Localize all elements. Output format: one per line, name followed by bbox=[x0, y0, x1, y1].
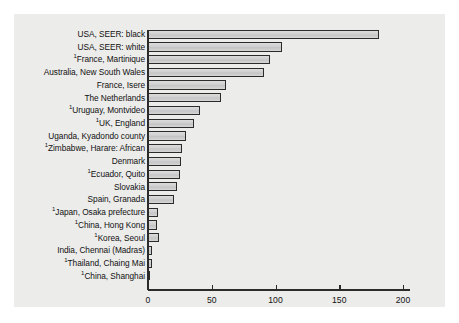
plot-area: USA, SEER: blackUSA, SEER: white1France,… bbox=[14, 14, 445, 307]
bar bbox=[148, 68, 264, 77]
bar-row: France, Isere bbox=[14, 79, 445, 92]
x-tick-label: 0 bbox=[146, 295, 151, 305]
bar-row: 1Korea, Seoul bbox=[14, 232, 445, 245]
bar bbox=[148, 30, 379, 39]
x-axis-line bbox=[148, 289, 410, 291]
footnote-marker: 1 bbox=[75, 219, 78, 225]
bar bbox=[148, 93, 221, 102]
bar bbox=[148, 106, 200, 115]
bar bbox=[148, 220, 157, 229]
category-label: 1Japan, Osaka prefecture bbox=[52, 206, 148, 219]
category-label: 1Ecuador, Quito bbox=[88, 168, 148, 181]
bar-row: Australia, New South Wales bbox=[14, 66, 445, 79]
bar-row: 1China, Shanghai bbox=[14, 270, 445, 283]
x-tick bbox=[276, 285, 277, 291]
category-label: 1Korea, Seoul bbox=[94, 232, 148, 245]
bar bbox=[148, 80, 226, 89]
bar bbox=[148, 131, 186, 140]
footnote-marker: 1 bbox=[73, 54, 76, 60]
footnote-marker: 1 bbox=[94, 232, 97, 238]
bar-row: 1Japan, Osaka prefecture bbox=[14, 206, 445, 219]
category-label: 1Thailand, Chaing Mai bbox=[64, 257, 148, 270]
bar-row: Uganda, Kyadondo county bbox=[14, 130, 445, 143]
category-label: Uganda, Kyadondo county bbox=[48, 130, 148, 143]
bar-row: USA, SEER: white bbox=[14, 41, 445, 54]
bar-row: 1Uruguay, Montvideo bbox=[14, 104, 445, 117]
category-label: The Netherlands bbox=[84, 92, 148, 105]
bar-row: The Netherlands bbox=[14, 92, 445, 105]
bar-row: Spain, Granada bbox=[14, 193, 445, 206]
x-tick-label: 150 bbox=[332, 295, 346, 305]
category-label: 1France, Martinique bbox=[73, 53, 148, 66]
bar bbox=[148, 144, 182, 153]
bar bbox=[148, 157, 181, 166]
bar-row: 1Thailand, Chaing Mai bbox=[14, 257, 445, 270]
chart-panel: USA, SEER: blackUSA, SEER: white1France,… bbox=[14, 14, 445, 307]
footnote-marker: 1 bbox=[45, 143, 48, 149]
footnote-marker: 1 bbox=[64, 257, 67, 263]
bar-row: India, Chennai (Madras) bbox=[14, 244, 445, 257]
bar bbox=[148, 55, 270, 64]
category-label: USA, SEER: black bbox=[78, 28, 148, 41]
category-label: USA, SEER: white bbox=[78, 41, 148, 54]
x-tick-label: 100 bbox=[268, 295, 282, 305]
bar bbox=[148, 259, 152, 268]
category-label: 1China, Hong Kong bbox=[75, 219, 148, 232]
bar bbox=[148, 246, 152, 255]
footnote-marker: 1 bbox=[52, 206, 55, 212]
category-label: 1Zimbabwe, Harare: African bbox=[45, 142, 148, 155]
bar-row: Slovakia bbox=[14, 181, 445, 194]
bar-row: 1Ecuador, Quito bbox=[14, 168, 445, 181]
bar bbox=[148, 182, 177, 191]
x-tick bbox=[212, 285, 213, 291]
bar bbox=[148, 170, 180, 179]
bar-row: 1UK, England bbox=[14, 117, 445, 130]
bar-row: Denmark bbox=[14, 155, 445, 168]
footnote-marker: 1 bbox=[69, 105, 72, 111]
figure: USA, SEER: blackUSA, SEER: white1France,… bbox=[0, 0, 459, 323]
bar bbox=[148, 42, 282, 51]
category-label: India, Chennai (Madras) bbox=[57, 244, 148, 257]
x-tick-label: 200 bbox=[396, 295, 410, 305]
bar-row: 1China, Hong Kong bbox=[14, 219, 445, 232]
footnote-marker: 1 bbox=[96, 117, 99, 123]
category-label: 1UK, England bbox=[96, 117, 148, 130]
bar bbox=[148, 233, 159, 242]
footnote-marker: 1 bbox=[81, 270, 84, 276]
bar-row: 1France, Martinique bbox=[14, 53, 445, 66]
category-label: 1China, Shanghai bbox=[81, 270, 148, 283]
category-label: Australia, New South Wales bbox=[44, 66, 148, 79]
footnote-marker: 1 bbox=[88, 168, 91, 174]
bar-row: USA, SEER: black bbox=[14, 28, 445, 41]
x-tick-label: 50 bbox=[207, 295, 217, 305]
category-label: 1Uruguay, Montvideo bbox=[69, 104, 148, 117]
category-label: France, Isere bbox=[97, 79, 148, 92]
category-label: Spain, Granada bbox=[88, 193, 148, 206]
bar bbox=[148, 119, 194, 128]
bar bbox=[148, 195, 174, 204]
x-tick bbox=[148, 285, 149, 291]
category-label: Slovakia bbox=[114, 181, 148, 194]
x-tick bbox=[339, 285, 340, 291]
x-tick bbox=[403, 285, 404, 291]
bar bbox=[148, 208, 158, 217]
category-label: Denmark bbox=[112, 155, 148, 168]
bar-row: 1Zimbabwe, Harare: African bbox=[14, 142, 445, 155]
bar bbox=[148, 271, 150, 280]
